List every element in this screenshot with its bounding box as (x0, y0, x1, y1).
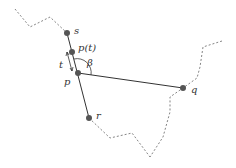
label-p: p (64, 76, 71, 87)
t-label: t (59, 59, 64, 70)
label-r: r (96, 110, 102, 121)
diagram-canvas: sp(t)pqr β t (0, 0, 236, 168)
point-q (180, 85, 186, 91)
segment-p-q (78, 73, 183, 88)
label-s: s (74, 25, 79, 36)
dashed-boundary-paths (15, 9, 222, 157)
point-pt (69, 49, 75, 55)
label-q: q (191, 84, 197, 95)
dashed-path-0 (15, 9, 67, 33)
dashed-path-1 (150, 41, 222, 157)
labels-layer: sp(t)pqr (64, 25, 197, 121)
angle-label-beta: β (86, 57, 93, 68)
dashed-path-2 (89, 118, 150, 157)
point-p (75, 70, 81, 76)
label-pt: p(t) (78, 42, 96, 53)
point-r (86, 115, 92, 121)
point-s (64, 30, 70, 36)
